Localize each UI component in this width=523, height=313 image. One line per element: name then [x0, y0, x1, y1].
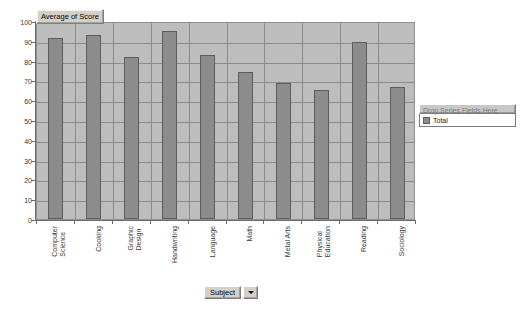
x-tick-label: Language	[209, 226, 217, 257]
x-tick-mark	[226, 221, 227, 224]
legend: Drop Series Fields Here Total	[419, 104, 516, 127]
y-tick-label: 30	[6, 158, 32, 165]
bars-layer	[37, 23, 414, 219]
y-tick-mark	[31, 121, 35, 122]
legend-swatch-total	[423, 117, 430, 124]
y-tick-label: 80	[6, 59, 32, 66]
y-tick-mark	[31, 141, 35, 142]
x-tick-label: PhysicalEducation	[316, 226, 332, 257]
x-tick-label: ComputerScience	[51, 226, 67, 257]
x-tick-mark	[150, 221, 151, 224]
series-drop-zone[interactable]: Drop Series Fields Here	[419, 104, 516, 114]
y-tick-label: 50	[6, 118, 32, 125]
pivot-chart: Average of Score 1009080706050403020100 …	[0, 0, 523, 313]
x-tick-label: GraphicDesign	[127, 226, 143, 251]
bar[interactable]	[124, 57, 139, 219]
x-tick-mark	[112, 221, 113, 224]
bar[interactable]	[352, 42, 367, 219]
bar[interactable]	[200, 55, 215, 219]
y-tick-mark	[31, 81, 35, 82]
y-tick-mark	[31, 220, 35, 221]
data-field-button[interactable]: Average of Score	[36, 9, 104, 24]
y-axis-tick-labels: 1009080706050403020100	[0, 0, 32, 313]
y-tick-label: 90	[6, 39, 32, 46]
bar[interactable]	[162, 31, 177, 219]
x-tick-mark	[301, 221, 302, 224]
y-tick-label: 60	[6, 98, 32, 105]
x-tick-mark	[415, 221, 416, 224]
y-tick-mark	[31, 200, 35, 201]
y-tick-label: 100	[6, 19, 32, 26]
x-tick-mark	[36, 221, 37, 224]
y-tick-mark	[31, 180, 35, 181]
x-tick-label: Cooking	[95, 226, 103, 252]
category-field-button[interactable]: Subject	[204, 286, 241, 299]
y-tick-label: 20	[6, 177, 32, 184]
y-axis-line	[35, 21, 36, 221]
bar[interactable]	[276, 83, 291, 219]
x-tick-label: Sociology	[398, 226, 406, 256]
x-tick-mark	[377, 221, 378, 224]
x-tick-label: Metal Arts	[284, 226, 292, 257]
x-tick-mark	[188, 221, 189, 224]
chevron-down-icon[interactable]	[243, 286, 258, 299]
bar[interactable]	[390, 87, 405, 219]
x-tick-label: Reading	[360, 226, 368, 252]
y-tick-mark	[31, 161, 35, 162]
plot-area	[36, 22, 415, 220]
bar[interactable]	[48, 38, 63, 219]
y-tick-label: 0	[6, 217, 32, 224]
x-tick-label: Handwriting	[171, 226, 179, 263]
x-tick-label: Math	[246, 226, 254, 242]
x-tick-mark	[339, 221, 340, 224]
category-field-control: Subject	[204, 286, 258, 299]
x-tick-mark	[263, 221, 264, 224]
y-tick-mark	[31, 42, 35, 43]
y-tick-mark	[31, 101, 35, 102]
y-tick-label: 40	[6, 138, 32, 145]
bar[interactable]	[314, 90, 329, 219]
bar[interactable]	[86, 35, 101, 219]
bar[interactable]	[238, 72, 253, 219]
x-tick-mark	[74, 221, 75, 224]
y-tick-mark	[31, 62, 35, 63]
chevron-down-glyph	[248, 291, 254, 294]
y-tick-label: 10	[6, 197, 32, 204]
y-tick-mark	[31, 22, 35, 23]
legend-label-total: Total	[433, 117, 448, 124]
y-tick-label: 70	[6, 78, 32, 85]
